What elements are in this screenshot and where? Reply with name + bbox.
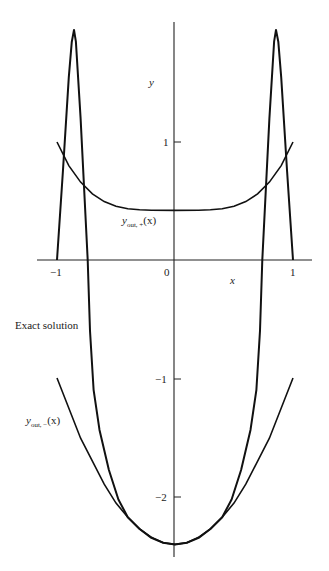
y-out-minus-curve [57,378,293,544]
y-tick-label-1: 1 [163,136,169,148]
y-out-plus-curve [57,142,293,210]
x-tick-label-1: 1 [290,266,296,278]
y-tick-label-neg2: −2 [155,491,167,503]
x-axis-label: x [229,274,235,286]
y-tick-label-neg1: −1 [155,373,167,385]
exact-solution-curve [57,30,293,545]
solution-plot: 1 −1 −2 −1 0 1 x y Exact solution yout, … [0,0,329,571]
y-out-plus-label: yout, +(x) [121,214,156,229]
exact-solution-label: Exact solution [15,319,79,331]
y-axis-label: y [148,76,154,88]
y-out-minus-label: yout, −(x) [25,414,60,429]
x-tick-label-neg1: −1 [50,266,62,278]
x-tick-label-0: 0 [164,266,170,278]
